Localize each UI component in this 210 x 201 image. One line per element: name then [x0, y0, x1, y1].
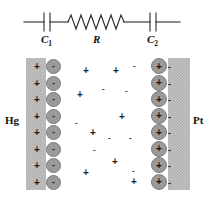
pt-counter-anion: -: [168, 129, 171, 138]
solution-cation: +: [131, 177, 137, 187]
hg-adsorbed-anion: -: [46, 142, 61, 157]
pt-adsorbed-cation: +: [151, 174, 167, 190]
solution-cation: +: [83, 168, 89, 178]
pt-adsorbed-cation: +: [151, 141, 167, 157]
hg-adsorbed-anion: -: [46, 175, 61, 190]
hg-surface-charge: +: [34, 79, 40, 89]
hg-adsorbed-anion: -: [46, 76, 61, 91]
solution-cation: +: [112, 157, 118, 167]
pt-counter-anion: -: [168, 146, 171, 155]
pt-counter-anion: -: [168, 179, 171, 188]
solution-anion: -: [102, 85, 105, 93]
pt-counter-anion: -: [168, 80, 171, 89]
solution-anion: -: [132, 167, 135, 175]
hg-adsorbed-anion: -: [46, 92, 61, 107]
pt-counter-anion: -: [168, 63, 171, 72]
electrode-hg-label: Hg: [5, 114, 19, 126]
pt-adsorbed-cation: +: [151, 157, 167, 173]
circuit-svg: [0, 0, 210, 54]
hg-surface-charge: +: [34, 95, 40, 105]
hg-surface-charge: +: [34, 178, 40, 188]
pt-adsorbed-cation: +: [151, 58, 167, 74]
solution-anion: -: [133, 62, 136, 70]
hg-adsorbed-anion: -: [46, 109, 61, 124]
hg-surface-charge: +: [34, 145, 40, 155]
hg-adsorbed-anion: -: [46, 125, 61, 140]
solution-anion: -: [75, 119, 78, 127]
electrode-pt-label: Pt: [193, 114, 203, 126]
solution-cation: +: [83, 66, 89, 76]
pt-adsorbed-cation: +: [151, 124, 167, 140]
solution-cation: +: [113, 66, 119, 76]
equivalent-circuit: C1 R C2: [0, 0, 210, 54]
pt-adsorbed-cation: +: [151, 108, 167, 124]
pt-adsorbed-cation: +: [151, 91, 167, 107]
electrode-pt-bar: [168, 58, 190, 190]
double-layer-figure: C1 R C2 Hg Pt ++++++++ -------- ++++++++…: [0, 0, 210, 201]
hg-surface-charge: +: [34, 112, 40, 122]
resistor-r-label: R: [93, 33, 100, 45]
electrochemical-cell: Hg Pt ++++++++ -------- ++++++++ -------…: [0, 54, 210, 201]
hg-surface-charge: +: [34, 161, 40, 171]
pt-counter-anion: -: [168, 113, 171, 122]
hg-surface-charge: +: [34, 128, 40, 138]
solution-anion: -: [93, 146, 96, 154]
hg-adsorbed-anion: -: [46, 59, 61, 74]
pt-adsorbed-cation: +: [151, 75, 167, 91]
solution-cation: +: [119, 112, 125, 122]
hg-surface-charge: +: [34, 62, 40, 72]
hg-adsorbed-anion: -: [46, 158, 61, 173]
pt-counter-anion: -: [168, 96, 171, 105]
capacitor-c1-label: C1: [41, 33, 52, 48]
solution-cation: +: [90, 128, 96, 138]
solution-anion: -: [129, 134, 132, 142]
solution-anion: -: [125, 87, 128, 95]
pt-counter-anion: -: [168, 162, 171, 171]
solution-cation: +: [77, 90, 83, 100]
capacitor-c2-label: C2: [147, 33, 158, 48]
resistor-r-zigzag: [68, 15, 124, 29]
solution-anion: -: [108, 134, 111, 142]
